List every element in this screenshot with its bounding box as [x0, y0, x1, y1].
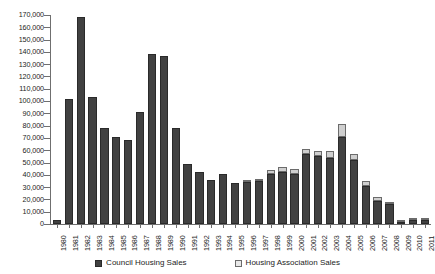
bar-group[interactable] — [160, 15, 168, 224]
legend-swatch-housing-association-icon — [235, 260, 242, 267]
bar-segment-council[interactable] — [278, 172, 286, 224]
bar-group[interactable] — [136, 15, 144, 224]
bar-segment-council[interactable] — [124, 140, 132, 224]
bar-segment-housing-association[interactable] — [350, 154, 358, 160]
bar-segment-council[interactable] — [172, 128, 180, 224]
bar-segment-council[interactable] — [195, 172, 203, 224]
bar-segment-council[interactable] — [314, 156, 322, 224]
bar-segment-council[interactable] — [338, 137, 346, 224]
bar-segment-housing-association[interactable] — [362, 181, 370, 186]
bar-segment-housing-association[interactable] — [421, 218, 429, 220]
y-axis-tick — [44, 175, 50, 176]
bar-segment-council[interactable] — [255, 181, 263, 224]
bar-segment-housing-association[interactable] — [397, 220, 405, 222]
bar-segment-housing-association[interactable] — [326, 151, 334, 157]
bar-group[interactable] — [350, 15, 358, 224]
x-axis-tick-label: 1984 — [108, 235, 115, 251]
bar-segment-council[interactable] — [350, 160, 358, 224]
bar-group[interactable] — [183, 15, 191, 224]
bar-group[interactable] — [112, 15, 120, 224]
y-axis-tick — [44, 15, 50, 16]
bar-group[interactable] — [231, 15, 239, 224]
bar-group[interactable] — [65, 15, 73, 224]
bar-segment-council[interactable] — [326, 158, 334, 224]
x-axis-tick — [128, 225, 129, 228]
bar-group[interactable] — [326, 15, 334, 224]
bar-segment-council[interactable] — [183, 164, 191, 224]
bar-segment-council[interactable] — [409, 220, 417, 224]
bar-segment-housing-association[interactable] — [338, 124, 346, 136]
bar-group[interactable] — [397, 15, 405, 224]
bar-group[interactable] — [373, 15, 381, 224]
bar-segment-housing-association[interactable] — [409, 218, 417, 220]
bar-group[interactable] — [290, 15, 298, 224]
bar-group[interactable] — [255, 15, 263, 224]
bar-group[interactable] — [278, 15, 286, 224]
bar-group[interactable] — [53, 15, 61, 224]
bar-segment-council[interactable] — [243, 182, 251, 224]
bar-segment-council[interactable] — [77, 17, 85, 224]
bar-segment-housing-association[interactable] — [314, 151, 322, 156]
x-axis-tick — [366, 225, 367, 228]
y-axis-tick — [44, 138, 50, 139]
bar-segment-council[interactable] — [65, 99, 73, 224]
bar-group[interactable] — [243, 15, 251, 224]
x-axis-tick-label: 1990 — [179, 235, 186, 251]
x-axis-tick-label: 2003 — [333, 235, 340, 251]
bar-group[interactable] — [314, 15, 322, 224]
bar-segment-housing-association[interactable] — [278, 167, 286, 172]
bar-segment-housing-association[interactable] — [255, 179, 263, 181]
bar-segment-council[interactable] — [373, 201, 381, 224]
bar-segment-housing-association[interactable] — [290, 169, 298, 174]
x-axis-tick — [81, 225, 82, 228]
bar-group[interactable] — [338, 15, 346, 224]
x-axis-tick — [93, 225, 94, 228]
bar-group[interactable] — [77, 15, 85, 224]
bar-group[interactable] — [421, 15, 429, 224]
y-axis-tick — [44, 27, 50, 28]
bar-segment-council[interactable] — [53, 220, 61, 224]
bar-group[interactable] — [409, 15, 417, 224]
y-axis-tick — [44, 40, 50, 41]
bar-segment-housing-association[interactable] — [385, 202, 393, 204]
bar-segment-council[interactable] — [112, 137, 120, 224]
bar-group[interactable] — [172, 15, 180, 224]
bar-group[interactable] — [195, 15, 203, 224]
bar-segment-council[interactable] — [302, 154, 310, 224]
bar-segment-council[interactable] — [207, 180, 215, 224]
bar-segment-council[interactable] — [160, 56, 168, 224]
x-axis-tick — [247, 225, 248, 228]
bar-segment-council[interactable] — [267, 174, 275, 224]
bar-group[interactable] — [362, 15, 370, 224]
bar-segment-housing-association[interactable] — [302, 149, 310, 154]
bar-group[interactable] — [100, 15, 108, 224]
bar-segment-council[interactable] — [148, 54, 156, 224]
bar-segment-council[interactable] — [421, 220, 429, 224]
bar-group[interactable] — [124, 15, 132, 224]
bar-segment-council[interactable] — [397, 222, 405, 224]
bar-segment-housing-association[interactable] — [267, 170, 275, 174]
x-axis-tick-label: 2001 — [310, 235, 317, 251]
bar-group[interactable] — [302, 15, 310, 224]
bar-segment-housing-association[interactable] — [373, 197, 381, 201]
x-axis-tick — [425, 225, 426, 228]
bar-segment-council[interactable] — [100, 128, 108, 224]
bar-segment-council[interactable] — [136, 112, 144, 224]
bar-group[interactable] — [267, 15, 275, 224]
bar-group[interactable] — [88, 15, 96, 224]
bar-segment-council[interactable] — [385, 204, 393, 224]
bar-segment-council[interactable] — [231, 183, 239, 224]
bar-group[interactable] — [219, 15, 227, 224]
bar-group[interactable] — [385, 15, 393, 224]
x-axis-tick-label: 1996 — [250, 235, 257, 251]
x-axis-tick-label: 1995 — [238, 235, 245, 251]
bar-segment-council[interactable] — [88, 97, 96, 224]
bar-segment-housing-association[interactable] — [243, 180, 251, 182]
bar-segment-council[interactable] — [362, 186, 370, 224]
bar-segment-council[interactable] — [290, 174, 298, 224]
bar-segment-council[interactable] — [219, 174, 227, 224]
bar-group[interactable] — [207, 15, 215, 224]
bar-group[interactable] — [148, 15, 156, 224]
x-axis-tick — [306, 225, 307, 228]
legend-label-council: Council Housing Sales — [106, 259, 187, 267]
